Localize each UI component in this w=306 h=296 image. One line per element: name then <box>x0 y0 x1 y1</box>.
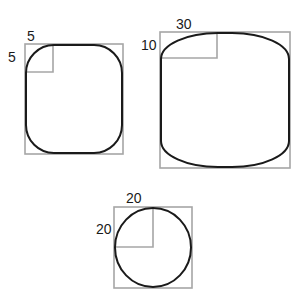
shape-circle <box>114 207 192 288</box>
rounded-rectangle-diagram: 5 5 30 10 20 20 <box>0 0 306 296</box>
label-shape-1-top: 5 <box>27 29 35 43</box>
label-shape-3-left: 20 <box>96 222 112 236</box>
label-shape-2-left: 10 <box>141 38 157 52</box>
shape-small-rounded-square <box>25 44 123 154</box>
rounded-rect-outline-shape-1 <box>26 45 122 153</box>
label-shape-3-top: 20 <box>126 191 142 205</box>
bounding-box-shape-2 <box>160 32 290 168</box>
shape-wide-rounded-rect <box>160 32 290 168</box>
bounding-box-shape-1 <box>25 44 123 154</box>
label-shape-1-left: 5 <box>8 50 16 64</box>
rounded-rect-outline-shape-2 <box>161 33 289 167</box>
label-shape-2-top: 30 <box>176 17 192 31</box>
